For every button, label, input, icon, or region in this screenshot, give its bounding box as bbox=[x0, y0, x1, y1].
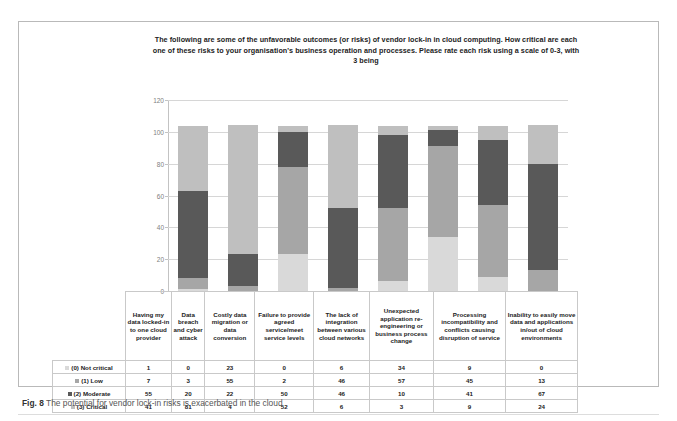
legend-label-text: (2) Moderate bbox=[74, 390, 111, 397]
table-cell-value: 24 bbox=[506, 400, 578, 413]
legend-label-text: (1) Low bbox=[81, 377, 103, 384]
table-cell-value: 6 bbox=[314, 361, 370, 374]
legend-swatch-icon bbox=[75, 379, 79, 383]
y-tick-label: 40 bbox=[157, 224, 164, 231]
caption-divider bbox=[18, 414, 659, 415]
table-cell-value: 55 bbox=[205, 374, 255, 387]
bar-column bbox=[228, 125, 258, 291]
y-tick-label: 100 bbox=[153, 128, 164, 135]
bar-segment bbox=[278, 254, 308, 291]
bar-column bbox=[378, 126, 408, 292]
figure-page: The following are some of the unfavorabl… bbox=[0, 0, 677, 421]
table-cell-value: 2 bbox=[255, 374, 314, 387]
bar-segment bbox=[228, 125, 258, 254]
bar-segment bbox=[228, 254, 258, 286]
table-cell-value: 3 bbox=[171, 374, 205, 387]
bar-segment bbox=[178, 278, 208, 289]
bar-segment bbox=[378, 208, 408, 281]
y-tick-label: 120 bbox=[153, 97, 164, 104]
bar-segment bbox=[278, 132, 308, 167]
caption-text: The potential for vendor lock-in risks i… bbox=[46, 398, 282, 408]
table-header-row: Having my data locked-in to one cloud pr… bbox=[53, 292, 578, 361]
table-cell-value: 45 bbox=[433, 374, 505, 387]
bar-segment bbox=[478, 140, 508, 205]
table-cell-value: 0 bbox=[171, 361, 205, 374]
bar-segment bbox=[528, 270, 558, 291]
table-cell-value: 13 bbox=[506, 374, 578, 387]
y-tick-label: 60 bbox=[157, 192, 164, 199]
bar-segment bbox=[328, 208, 358, 288]
bar-segment bbox=[378, 126, 408, 136]
table-cell-value: 46 bbox=[314, 374, 370, 387]
bar-column bbox=[428, 126, 458, 292]
table-column-header: Unexpected application re-engineering or… bbox=[369, 292, 433, 361]
table-column-header: Costly data migration or data conversion bbox=[205, 292, 255, 361]
table-corner-cell bbox=[53, 292, 126, 361]
table-cell-value: 7 bbox=[126, 374, 172, 387]
table-column-header: Inability to easily move data and applic… bbox=[506, 292, 578, 361]
bar-segment bbox=[428, 237, 458, 291]
bar-segment bbox=[178, 191, 208, 279]
table-cell-value: 34 bbox=[369, 361, 433, 374]
bar-column bbox=[478, 126, 508, 292]
bar-segment bbox=[178, 126, 208, 191]
table-column-header: Having my data locked-in to one cloud pr… bbox=[126, 292, 172, 361]
table-cell-value: 3 bbox=[369, 400, 433, 413]
legend-row-label: (0) Not critical bbox=[53, 361, 126, 374]
figure-frame: The following are some of the unfavorabl… bbox=[18, 21, 659, 387]
legend-swatch-icon bbox=[68, 392, 72, 396]
bar-segment bbox=[478, 126, 508, 140]
table-column-header: Failure to provide agreed service/meet s… bbox=[255, 292, 314, 361]
table-cell-value: 46 bbox=[314, 387, 370, 400]
table-column-header: Data breach and cyber attack bbox=[171, 292, 205, 361]
figure-caption: Fig. 8 The potential for vendor lock-in … bbox=[22, 398, 283, 408]
legend-row-label: (1) Low bbox=[53, 374, 126, 387]
table-row: (1) Low7355246574513 bbox=[53, 374, 578, 387]
legend-swatch-icon bbox=[65, 366, 69, 370]
bar-segment bbox=[478, 205, 508, 277]
bar-segment bbox=[378, 135, 408, 208]
table-cell-value: 0 bbox=[506, 361, 578, 374]
table-cell-value: 1 bbox=[126, 361, 172, 374]
data-table: Having my data locked-in to one cloud pr… bbox=[52, 291, 578, 413]
bar-segment bbox=[378, 281, 408, 291]
table-cell-value: 23 bbox=[205, 361, 255, 374]
table-cell-value: 57 bbox=[369, 374, 433, 387]
table-cell-value: 9 bbox=[433, 361, 505, 374]
bar-segment bbox=[528, 164, 558, 271]
table-cell-value: 6 bbox=[314, 400, 370, 413]
bar-segment bbox=[428, 130, 458, 146]
bar-segment bbox=[428, 146, 458, 237]
table-column-header: Processing incompatibility and conflicts… bbox=[433, 292, 505, 361]
table-row: (0) Not critical1023063490 bbox=[53, 361, 578, 374]
bar-column bbox=[328, 125, 358, 291]
bar-segment bbox=[278, 167, 308, 255]
bar-segment bbox=[528, 125, 558, 163]
table-column-header: The lack of integration between various … bbox=[314, 292, 370, 361]
bar-segment bbox=[478, 277, 508, 291]
legend-label-text: (0) Not critical bbox=[71, 364, 112, 371]
table-cell-value: 9 bbox=[433, 400, 505, 413]
table-cell-value: 41 bbox=[433, 387, 505, 400]
plot-area: 020406080100120 bbox=[168, 100, 568, 291]
bar-column bbox=[278, 126, 308, 292]
y-tick-label: 20 bbox=[157, 256, 164, 263]
bar-segment bbox=[328, 125, 358, 208]
bar-column bbox=[528, 125, 558, 291]
caption-label: Fig. 8 bbox=[22, 398, 44, 408]
y-tick-label: 80 bbox=[157, 160, 164, 167]
table-cell-value: 10 bbox=[369, 387, 433, 400]
chart-title: The following are some of the unfavorabl… bbox=[151, 35, 581, 67]
table-cell-value: 0 bbox=[255, 361, 314, 374]
bar-group bbox=[168, 100, 568, 291]
bar-column bbox=[178, 126, 208, 292]
table-cell-value: 67 bbox=[506, 387, 578, 400]
